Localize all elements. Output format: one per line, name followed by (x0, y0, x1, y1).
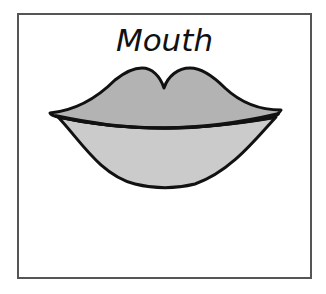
lips-icon (0, 0, 326, 294)
